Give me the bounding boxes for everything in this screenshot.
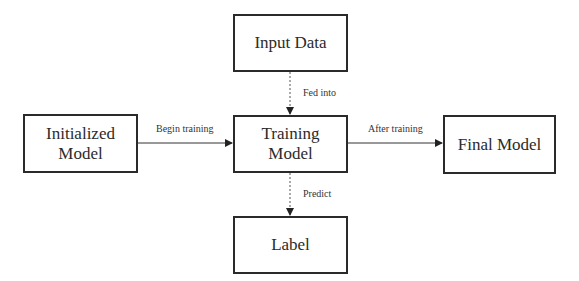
node-label-label: Label (271, 235, 310, 255)
node-initialized-model: Initialized Model (23, 114, 138, 173)
node-final-model-label: Final Model (458, 135, 542, 155)
node-input-data: Input Data (233, 14, 348, 72)
node-final-model: Final Model (443, 115, 556, 174)
edge-label-fed-into: Fed into (303, 87, 336, 98)
node-training-model-line1: Training (262, 124, 320, 144)
edge-label-after-training: After training (368, 123, 423, 134)
node-training-model-line2: Model (262, 144, 320, 164)
node-initialized-model-line2: Model (46, 144, 115, 164)
edge-label-begin-training: Begin training (156, 123, 214, 134)
node-label: Label (233, 216, 348, 274)
node-initialized-model-line1: Initialized (46, 124, 115, 144)
node-input-data-label: Input Data (254, 33, 326, 53)
edge-label-predict: Predict (303, 188, 331, 199)
node-training-model: Training Model (233, 115, 348, 173)
